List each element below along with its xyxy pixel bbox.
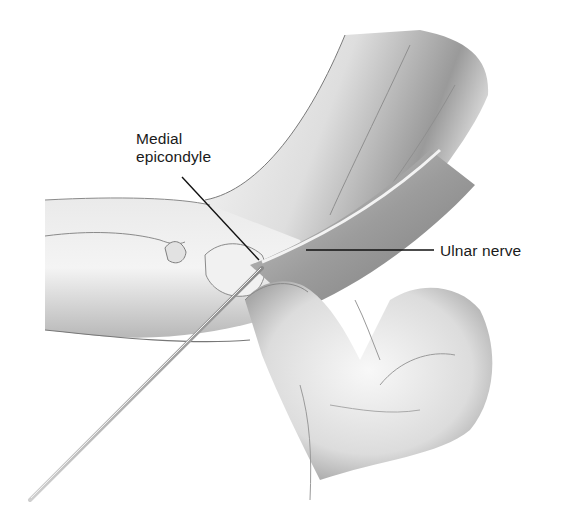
anatomical-illustration: Medial epicondyle Ulnar nerve (0, 0, 564, 517)
medial-epicondyle-label-line1: Medial (136, 130, 246, 148)
medial-epicondyle-label: Medial epicondyle (136, 130, 246, 166)
hand (245, 281, 492, 500)
ulnar-nerve-label: Ulnar nerve (440, 242, 521, 260)
medial-epicondyle-label-line2: epicondyle (136, 148, 246, 166)
